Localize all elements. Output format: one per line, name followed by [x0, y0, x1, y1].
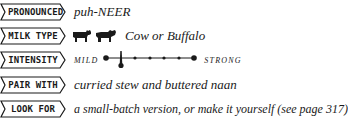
label-pair-with: PAIR WITH: [8, 76, 58, 94]
scale-max-label: STRONG: [204, 56, 241, 65]
row-intensity: INTENSITY MILD STRONG: [0, 50, 242, 70]
label-badge-look-for: LOOK FOR: [0, 100, 66, 118]
milk-icons: [72, 29, 117, 43]
label-badge-pair-with: PAIR WITH: [0, 76, 66, 94]
row-pronounced: PRONOUNCED puh-NEER: [0, 2, 130, 22]
buffalo-icon: [95, 29, 117, 43]
row-pair-with: PAIR WITH curried stew and buttered naan: [0, 75, 237, 95]
label-badge-milk-type: MILK TYPE: [0, 27, 66, 45]
scale-end-dot-icon: [192, 55, 198, 61]
label-look-for: LOOK FOR: [8, 100, 58, 118]
label-milk-type: MILK TYPE: [8, 27, 58, 45]
label-pronounced: PRONOUNCED: [8, 3, 58, 21]
label-badge-pronounced: PRONOUNCED: [0, 3, 66, 21]
row-look-for: LOOK FOR a small-batch version, or make …: [0, 99, 348, 119]
value-look-for: a small-batch version, or make it yourse…: [74, 102, 348, 117]
label-intensity: INTENSITY: [8, 51, 58, 69]
cow-icon: [72, 29, 92, 43]
row-milk-type: MILK TYPE Cow or Buffalo: [0, 26, 205, 46]
value-pair-with: curried stew and buttered naan: [74, 77, 237, 93]
value-pronounced: puh-NEER: [74, 4, 130, 20]
intensity-scale-graphic: [102, 50, 198, 70]
value-milk-type: Cow or Buffalo: [125, 28, 205, 44]
scale-min-label: MILD: [74, 56, 98, 65]
scale-end-dot-icon: [104, 55, 110, 61]
intensity-scale: [102, 50, 198, 70]
label-badge-intensity: INTENSITY: [0, 51, 66, 69]
